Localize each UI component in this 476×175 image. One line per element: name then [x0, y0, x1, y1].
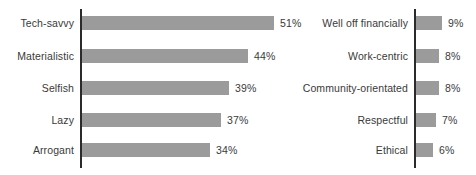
left-value-label-0: 51% [280, 17, 301, 29]
left-value-label-2: 39% [235, 82, 256, 94]
left-category-label-2: Selfish [0, 82, 74, 94]
table-row: Lazy 37% [0, 104, 300, 135]
left-bar-chart: Tech-savvy 51% Materialistic 44% Selfish… [0, 0, 300, 175]
table-row: Materialistic 44% [0, 40, 300, 71]
left-value-label-1: 44% [254, 50, 275, 62]
table-row: Respectful 7% [300, 104, 476, 135]
left-bar-0 [82, 16, 274, 30]
table-row: Selfish 39% [0, 72, 300, 103]
right-category-label-1: Work-centric [300, 50, 408, 62]
chart-figure: Tech-savvy 51% Materialistic 44% Selfish… [0, 0, 476, 175]
right-bar-1 [416, 49, 439, 63]
left-bar-3 [82, 113, 221, 127]
right-bar-2 [416, 81, 439, 95]
right-value-label-3: 7% [442, 114, 457, 126]
left-bar-2 [82, 81, 229, 95]
left-bar-1 [82, 49, 248, 63]
left-value-label-4: 34% [216, 144, 237, 156]
right-category-label-3: Respectful [300, 114, 408, 126]
right-value-label-4: 6% [439, 144, 454, 156]
left-category-label-4: Arrogant [0, 144, 74, 156]
table-row: Tech-savvy 51% [0, 7, 300, 38]
right-category-label-0: Well off financially [300, 17, 408, 29]
left-category-label-3: Lazy [0, 114, 74, 126]
right-category-label-2: Community-orientated [300, 82, 408, 94]
left-category-label-1: Materialistic [0, 50, 74, 62]
right-bar-chart: Well off financially 9% Work-centric 8% … [300, 0, 476, 175]
table-row: Ethical 6% [300, 134, 476, 165]
right-value-label-0: 9% [448, 17, 463, 29]
left-bar-4 [82, 143, 210, 157]
right-value-label-1: 8% [445, 50, 460, 62]
table-row: Well off financially 9% [300, 7, 476, 38]
right-value-label-2: 8% [445, 82, 460, 94]
right-bar-4 [416, 143, 433, 157]
right-bar-0 [416, 16, 442, 30]
right-bar-3 [416, 113, 436, 127]
table-row: Work-centric 8% [300, 40, 476, 71]
left-value-label-3: 37% [227, 114, 248, 126]
table-row: Community-orientated 8% [300, 72, 476, 103]
right-category-label-4: Ethical [300, 144, 408, 156]
table-row: Arrogant 34% [0, 134, 300, 165]
left-category-label-0: Tech-savvy [0, 17, 74, 29]
